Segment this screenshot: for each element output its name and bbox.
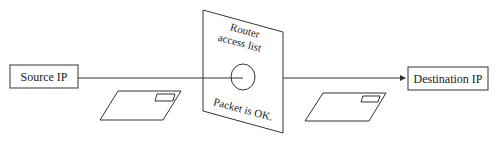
packet-envelope-icon [305,93,386,121]
stamp-icon [155,94,175,101]
router-access-list-panel: Router access list Packet is OK. [203,10,283,133]
stamp-icon [361,96,380,102]
destination-ip-label: Destination IP [414,72,483,86]
packet-envelope-icon [100,91,181,120]
destination-ip-node: Destination IP [408,67,488,90]
source-ip-label: Source IP [21,70,68,84]
access-list-diagram: Source IP Router access list Packet is O… [0,0,497,141]
source-ip-node: Source IP [10,65,78,88]
